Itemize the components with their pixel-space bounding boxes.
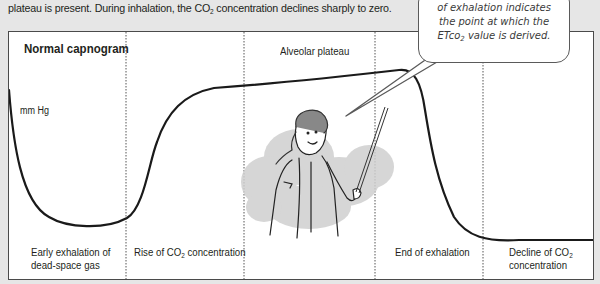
- phase-label-line: Decline of CO2: [509, 246, 573, 259]
- phase-label-line: Early exhalation of: [31, 246, 110, 259]
- callout-line: ETco2 value is derived.: [419, 29, 569, 43]
- callout-text: value is derived.: [465, 30, 551, 41]
- phase-label-end-exhalation: End of exhalation: [395, 246, 470, 259]
- etco2-text: ETco: [437, 30, 460, 41]
- capnogram-plot: [9, 32, 594, 280]
- illustration-woman-icon: [241, 107, 394, 238]
- phase-label-line: concentration: [509, 259, 573, 272]
- callout-line: of exhalation indicates: [419, 1, 569, 15]
- alveolar-plateau-label: Alveolar plateau: [280, 45, 349, 57]
- intro-text-part: concentration declines sharply to zero.: [214, 2, 392, 14]
- y-axis-unit: mm Hg: [20, 105, 49, 116]
- intro-text: plateau is present. During inhalation, t…: [8, 1, 392, 15]
- phase-label-rise: Rise of CO2 concentration: [134, 246, 246, 259]
- phase-label-subscript: 2: [569, 252, 573, 259]
- intro-text-part: plateau is present. During inhalation, t…: [8, 2, 210, 14]
- phase-label-early-exhalation: Early exhalation of dead-space gas: [31, 246, 110, 272]
- phase-label-text: Decline of CO: [509, 246, 569, 258]
- capnogram-chart: Normal capnogram mm Hg Alveolar plateau …: [8, 31, 594, 280]
- chart-title: Normal capnogram: [24, 42, 129, 56]
- phase-label-decline: Decline of CO2 concentration: [509, 246, 573, 272]
- phase-label-line: dead-space gas: [31, 259, 110, 272]
- phase-label-text: Rise of CO: [134, 246, 181, 258]
- callout-bubble: of exhalation indicates the point at whi…: [418, 0, 570, 63]
- phase-label-text: concentration: [185, 246, 246, 258]
- callout-line: the point at which the: [419, 15, 569, 29]
